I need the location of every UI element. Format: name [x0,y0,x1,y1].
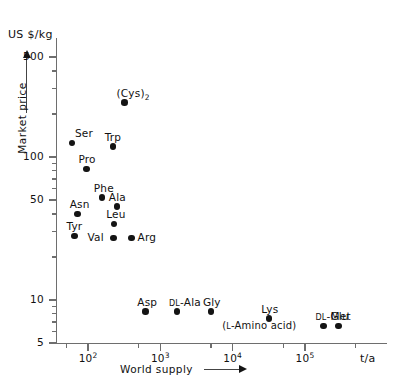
data-point-gly [208,308,214,314]
x-axis-line [56,343,387,344]
x-minor-tick [210,343,211,348]
data-point-asp [142,308,148,314]
data-point-dl-met [320,323,326,329]
y-minor-tick [52,163,57,164]
x-tick-label-1e2: 102 [68,352,108,364]
y-tick-10 [49,299,57,300]
point-label-pro: Pro [78,153,95,165]
point-label-gly: Gly [203,296,221,308]
data-point-glu [335,323,341,329]
annotation-l-amino-acid: (L-Amino acid) [222,320,296,331]
x-minor-tick [283,343,284,348]
x-tick-1e2 [87,343,88,351]
x-tick-label-1e4: 104 [213,352,253,364]
data-point-val [110,235,116,241]
y-tick-100 [49,156,57,157]
data-point-arg [128,235,134,241]
data-point-phe [99,194,105,200]
point-label-ala: Ala [109,191,126,203]
y-tick-50 [49,199,57,200]
point-label-leu: Leu [106,208,125,220]
point-label-asp: Asp [137,296,157,308]
x-tick-1e5 [304,343,305,351]
point-label-trp: Trp [105,131,121,143]
y-tick-label-500: 500 [12,50,44,62]
y-minor-tick [52,321,57,322]
y-minor-tick [52,88,57,89]
y-minor-tick [52,70,57,71]
x-axis-title: World supply [120,363,193,375]
y-tick-500 [49,56,57,57]
point-label-tyr: Tyr [66,220,82,232]
y-tick-label-5: 5 [12,336,44,348]
data-point-trp [110,143,116,149]
y-axis-unit-label: US $/kg [8,28,53,41]
y-minor-tick [52,170,57,171]
data-point-leu [111,221,117,227]
y-tick-5 [49,342,57,343]
point-label-dl-ala: DL-Ala [169,296,201,308]
data-point-pro [83,166,89,172]
y-minor-tick [52,188,57,189]
x-minor-tick [138,343,139,348]
data-point-ser [69,140,75,146]
y-minor-tick [52,113,57,114]
y-tick-label-10: 10 [12,293,44,305]
point-label-lys: Lys [261,303,278,315]
data-point-asn [74,211,80,217]
y-minor-tick [52,178,57,179]
x-axis-direction-arrow [204,369,240,370]
data-point-dl-ala [174,308,180,314]
y-tick-label-50: 50 [12,193,44,205]
data-point-cys-2 [121,99,127,105]
point-label-cys-2: (Cys)2 [117,87,150,99]
data-point-tyr [71,233,77,239]
y-minor-tick [52,313,57,314]
x-minor-tick [355,343,356,348]
x-minor-tick [66,343,67,348]
x-tick-1e4 [232,343,233,351]
y-minor-tick [52,331,57,332]
point-label-ser: Ser [75,127,93,139]
x-axis-unit-label: t/a [360,352,376,365]
y-minor-tick [52,256,57,257]
y-minor-tick [52,213,57,214]
y-tick-label-100: 100 [12,150,44,162]
point-label-asn: Asn [70,198,90,210]
x-tick-label-1e5: 105 [285,352,325,364]
x-tick-1e3 [160,343,161,351]
scatter-plot-figure: US $/kg Market price 5001005010510210310… [0,0,397,381]
point-label-val: Val [87,231,103,243]
y-minor-tick [52,231,57,232]
point-label-glu: Glu [330,310,348,322]
point-label-arg: Arg [138,231,157,243]
y-minor-tick [52,306,57,307]
y-axis-line [56,38,57,344]
